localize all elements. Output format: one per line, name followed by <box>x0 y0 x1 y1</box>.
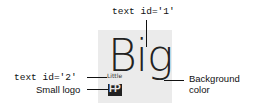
logo-label: Small logo <box>36 84 80 95</box>
background-label: Background color <box>189 73 240 95</box>
text2-label: text id='2' <box>14 72 77 83</box>
logo-glyph: FP <box>109 83 120 94</box>
background-label-line1: Background <box>189 73 240 84</box>
logo-leader-line <box>87 89 108 90</box>
text1-leader-line <box>146 20 147 47</box>
little-text: Little <box>107 72 122 79</box>
background-label-line2: color <box>189 84 240 95</box>
small-logo-icon: FP <box>108 84 122 96</box>
text2-leader-line <box>87 77 107 78</box>
text1-label: text id='1' <box>112 6 175 17</box>
background-leader-line <box>164 80 184 81</box>
